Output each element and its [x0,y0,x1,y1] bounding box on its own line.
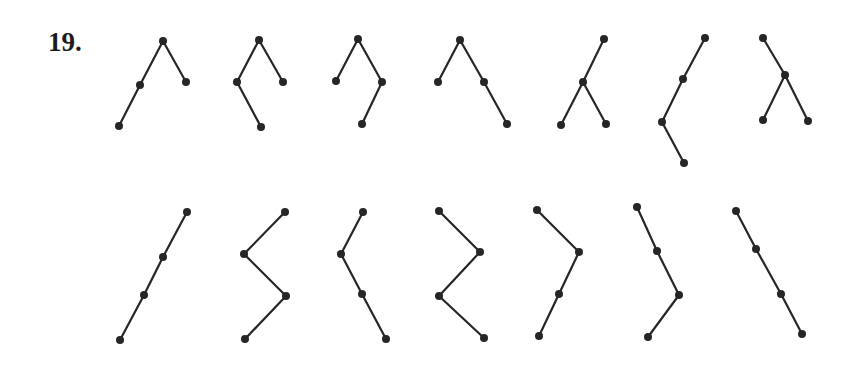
tree-node [579,78,587,86]
tree-node [115,122,123,130]
tree-edge [336,39,358,81]
tree-edge [559,252,579,294]
tree-node [279,78,287,86]
tree-node [781,71,789,79]
tree-3 [332,35,386,128]
tree-edge [756,249,781,294]
tree-node [658,118,666,126]
tree-12 [533,206,583,340]
tree-node [680,159,688,167]
tree-14 [732,207,806,338]
tree-node [282,292,290,300]
tree-edge [484,82,507,124]
tree-edge [245,296,286,339]
tree-edge [362,294,386,339]
tree-1 [115,37,190,130]
tree-edge [259,40,283,82]
tree-7 [759,34,812,125]
tree-edge [237,40,259,82]
tree-edge [781,294,802,334]
tree-13 [633,203,683,341]
tree-8 [116,208,191,344]
tree-edge [662,79,683,122]
tree-node [378,78,386,86]
tree-node [281,208,289,216]
tree-edge [362,82,382,124]
tree-edge [439,252,480,296]
tree-node [435,207,443,215]
tree-node [679,75,687,83]
tree-edge [144,257,163,295]
tree-node [255,36,263,44]
tree-node [159,37,167,45]
tree-edge [460,40,484,82]
tree-edge [583,39,604,82]
tree-node [358,290,366,298]
tree-5 [557,35,610,129]
tree-node [600,35,608,43]
tree-node [575,248,583,256]
tree-edge [785,75,808,121]
tree-node [382,335,390,343]
tree-node [456,36,464,44]
tree-node [804,117,812,125]
tree-edge [662,122,684,163]
tree-node [358,120,366,128]
tree-6 [658,34,709,167]
tree-node [257,123,265,131]
tree-node [480,334,488,342]
tree-node [434,78,442,86]
tree-node [476,248,484,256]
tree-edge [537,210,579,252]
tree-node [557,121,565,129]
tree-node [752,245,760,253]
tree-edge [736,211,756,249]
tree-node [354,35,362,43]
tree-node [233,78,241,86]
tree-node [240,250,248,258]
tree-edge [358,39,382,82]
tree-node [675,291,683,299]
tree-node [435,292,443,300]
tree-node [480,78,488,86]
tree-edge [438,40,460,82]
tree-edge [244,254,286,296]
tree-node [653,247,661,255]
tree-edge [163,41,186,82]
tree-edge [439,211,480,252]
tree-node [241,335,249,343]
tree-node [732,207,740,215]
tree-node [533,206,541,214]
tree-edge [341,254,362,294]
tree-node [602,120,610,128]
tree-edge [163,212,187,257]
tree-node [759,116,767,124]
tree-edge [237,82,261,127]
tree-node [535,332,543,340]
tree-node [759,34,767,42]
tree-edge [140,41,163,85]
tree-edge [119,85,140,126]
tree-edge [244,212,285,254]
tree-node [503,120,511,128]
tree-node [116,336,124,344]
tree-node [633,203,641,211]
tree-9 [240,208,290,343]
tree-node [182,78,190,86]
tree-edge [683,38,705,79]
tree-edge [637,207,657,251]
tree-edge [120,295,144,340]
tree-node [140,291,148,299]
tree-edge [763,75,785,120]
tree-node [183,208,191,216]
tree-edge [561,82,583,125]
tree-2 [233,36,287,131]
tree-node [337,250,345,258]
tree-node [555,290,563,298]
tree-edge [341,212,363,254]
tree-node [136,81,144,89]
tree-edge [583,82,606,124]
tree-4 [434,36,511,128]
tree-node [159,253,167,261]
tree-edge [763,38,785,75]
